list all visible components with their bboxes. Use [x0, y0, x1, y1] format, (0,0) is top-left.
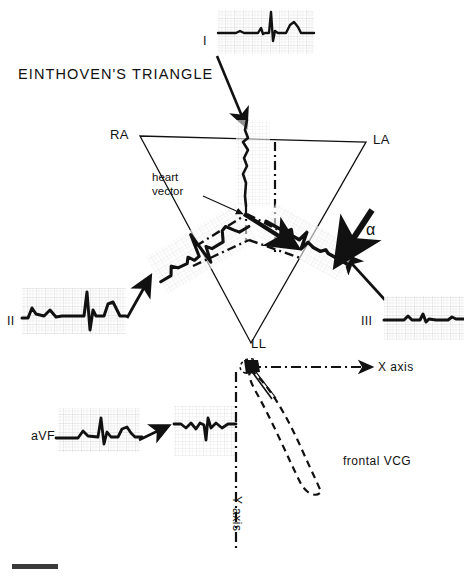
lead-label-1: I: [203, 35, 207, 48]
lead-1-tracing-on-triangle-side: [236, 120, 270, 206]
lead-label-2: II: [7, 315, 15, 328]
vertex-label-ll: LL: [251, 337, 266, 350]
lead-label-3: III: [361, 315, 372, 328]
heart-vector-label-line1: heart: [152, 172, 178, 184]
x-axis-label: X axis: [378, 361, 414, 373]
einthoven-triangle-figure: EINTHOVEN'S TRIANGLE RA LA LL I II III a…: [0, 0, 464, 580]
frontal-vcg-label: frontal VCG: [343, 455, 411, 467]
vertex-label-la: LA: [373, 133, 390, 146]
ecg-strip-lead-1: [218, 10, 314, 54]
figure-title: EINTHOVEN'S TRIANGLE: [18, 67, 213, 82]
lead-3-tracing-on-triangle-side: [258, 203, 357, 281]
figure-canvas: [0, 0, 464, 580]
lead-label-avf: aVF: [31, 430, 55, 443]
avf-projection-arrow: [139, 426, 168, 440]
scale-bar: [12, 564, 58, 569]
vertex-label-ra: RA: [110, 128, 129, 141]
alpha-angle-label: α: [366, 222, 375, 238]
ecg-strip-lead-avf: [56, 408, 142, 452]
heart-vector-label-line2: vector: [152, 186, 183, 198]
lead-1-projection-arrow: [217, 56, 246, 126]
lead-2-tracing-on-triangle-side: [146, 203, 258, 294]
lead-3-projection-arrow: [344, 255, 385, 300]
avf-tracing-near-y-axis: [174, 406, 236, 456]
lead-2-projection-arrow: [127, 277, 150, 318]
ecg-strip-lead-2: [22, 288, 126, 334]
ecg-strip-lead-3: [384, 296, 464, 340]
y-axis-label: Y axis: [231, 496, 243, 531]
frontal-vcg-loop: [238, 356, 321, 494]
